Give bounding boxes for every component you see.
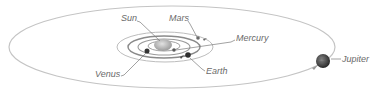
label-mars: Mars [169, 13, 189, 23]
venus-leader-line [121, 53, 146, 76]
earth-leader-line [190, 58, 205, 71]
label-sun: Sun [121, 13, 137, 23]
solar-system-diagram: Sun Mars Mercury Earth Venus Jupiter [0, 0, 378, 93]
orbit-graphic [0, 0, 378, 93]
mercury-planet-icon [172, 48, 176, 52]
earth-planet-icon [185, 52, 191, 58]
label-jupiter: Jupiter [342, 54, 369, 64]
jupiter-planet-icon [316, 54, 330, 68]
label-earth: Earth [206, 66, 228, 76]
venus-planet-icon [145, 49, 150, 54]
mercury-leader-line [176, 40, 235, 50]
label-mercury: Mercury [236, 33, 269, 43]
sun-icon [154, 39, 172, 51]
label-venus: Venus [95, 69, 120, 79]
